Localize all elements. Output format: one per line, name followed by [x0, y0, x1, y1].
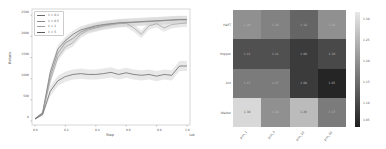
heatmap-cell: 1.08	[290, 69, 318, 98]
heatmap-cell: 1.10	[318, 39, 346, 68]
x-tick-label: 0.4	[95, 128, 100, 132]
legend-label: λ = 0.1	[48, 13, 59, 17]
x-axis-label: Step	[106, 133, 114, 137]
legend-item: λ = 0.5	[37, 19, 63, 24]
legend-item: λ = 1	[37, 24, 63, 29]
colorbar-tick-label: 1.05	[363, 118, 370, 122]
y-tick-label: 1500	[17, 52, 29, 56]
legend-swatch	[37, 26, 45, 27]
heatmap-chart: 1.201.181.141.201.111.111.081.101.171.17…	[195, 0, 386, 149]
row-label: Walker	[205, 111, 231, 115]
column-label: pnn_5	[267, 130, 276, 140]
heatmap-cell: 1.17	[233, 69, 261, 98]
heatmap-cell: 1.14	[290, 10, 318, 39]
column-label: pnn_50	[323, 131, 333, 142]
heatmap-cell: 1.20	[318, 10, 346, 39]
heatmap-cell: 1.17	[261, 69, 289, 98]
legend-label: λ = 0.5	[48, 19, 59, 23]
y-tick-label: 2500	[17, 10, 29, 14]
line-chart: 2500 2000 1500 1000 500 0 Return 0.0 0.2…	[0, 0, 195, 149]
y-tick-label: 500	[17, 94, 29, 98]
colorbar-tick-label: 1.15	[363, 80, 370, 84]
y-tick-label: 2000	[17, 31, 29, 35]
row-label: HalfT	[205, 23, 231, 27]
x-tick-label: 0.2	[64, 128, 69, 132]
legend-item: λ = 5	[37, 30, 63, 35]
heatmap-cell: 1.20	[261, 98, 289, 127]
colorbar-tick-label: 1.25	[363, 38, 370, 42]
legend-label: λ = 1	[48, 24, 56, 28]
legend: λ = 0.1 λ = 0.5 λ = 1 λ = 5	[34, 11, 64, 36]
row-label: Ant	[205, 81, 231, 85]
colorbar-tick-label: 1.10	[363, 101, 370, 105]
column-label: pnn_1	[239, 130, 248, 140]
y-tick-label: 1000	[17, 73, 29, 77]
y-tick-label: 0	[17, 115, 29, 119]
x-tick-label: 0.8	[157, 128, 162, 132]
heatmap-cell: 1.08	[290, 39, 318, 68]
heatmap-cell: 1.20	[233, 10, 261, 39]
row-label: Hopper	[205, 52, 231, 56]
heatmap-cell: 1.18	[261, 10, 289, 39]
legend-swatch	[37, 21, 45, 22]
y-axis-label: Return	[8, 52, 12, 64]
legend-item: λ = 0.1	[37, 13, 63, 18]
legend-label: λ = 5	[48, 30, 56, 34]
heatmap-cell: 1.30	[233, 98, 261, 127]
x-axis-offset: 1e6	[189, 133, 195, 137]
heatmap-cell: 1.11	[261, 39, 289, 68]
colorbar	[355, 12, 360, 127]
x-tick-label: 0.0	[33, 128, 38, 132]
heatmap-cell: 1.26	[290, 98, 318, 127]
colorbar-tick-label: 1.30	[363, 17, 370, 21]
colorbar-tick-label: 1.20	[363, 59, 370, 63]
heatmap-grid: 1.201.181.141.201.111.111.081.101.171.17…	[233, 10, 346, 127]
legend-swatch	[37, 32, 45, 33]
x-tick-label: 0.6	[126, 128, 131, 132]
column-label: pnn_10	[295, 131, 305, 142]
heatmap-cell: 1.11	[233, 39, 261, 68]
legend-swatch	[37, 15, 45, 16]
heatmap-cell: 1.05	[318, 69, 346, 98]
line-chart-plot	[0, 0, 195, 149]
x-tick-label: 1.0	[185, 128, 190, 132]
heatmap-cell: 1.17	[318, 98, 346, 127]
